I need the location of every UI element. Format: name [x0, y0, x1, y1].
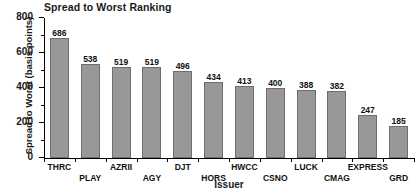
- y-axis-minor-tick: [41, 35, 44, 36]
- bar-value-label: 185: [391, 116, 405, 126]
- bar: 388: [297, 90, 316, 158]
- y-axis-minor-tick: [41, 105, 44, 106]
- x-axis-category-label: LUCK: [294, 162, 318, 172]
- bar-value-label: 686: [52, 28, 66, 38]
- bar: 496: [173, 71, 192, 158]
- chart-title: Spread to Worst Ranking: [44, 1, 172, 13]
- y-axis-tick-label: 0: [27, 151, 33, 163]
- y-axis-tick: 600: [39, 52, 44, 53]
- x-axis-tick: [260, 158, 261, 162]
- bar: 519: [142, 67, 161, 158]
- x-axis-category-label: HORS: [201, 173, 226, 183]
- bar-value-label: 434: [206, 72, 220, 82]
- bar-value-label: 388: [299, 80, 313, 90]
- bar: 686: [50, 38, 69, 158]
- x-axis-category-label: HWCC: [231, 162, 257, 172]
- x-axis-tick: [106, 158, 107, 162]
- bar: 519: [112, 67, 131, 158]
- bar-value-label: 538: [83, 54, 97, 64]
- y-axis-minor-tick: [41, 140, 44, 141]
- x-axis-category-label: EXPRESS: [348, 162, 388, 172]
- y-axis-tick: 200: [39, 122, 44, 123]
- x-axis-tick: [137, 158, 138, 162]
- x-axis-tick: [414, 158, 415, 162]
- y-axis-tick: 400: [39, 87, 44, 88]
- bar-value-label: 519: [145, 57, 159, 67]
- x-axis-tick: [291, 158, 292, 162]
- y-axis-tick-label: 800: [16, 11, 33, 23]
- y-axis-tick: 800: [39, 17, 44, 18]
- x-axis-category-label: CMAG: [324, 173, 350, 183]
- y-axis-tick-label: 400: [16, 81, 33, 93]
- x-axis-category-label: CSNO: [263, 173, 288, 183]
- y-axis-tick-label: 600: [16, 46, 33, 58]
- bar: 538: [81, 64, 100, 158]
- x-axis-tick: [167, 158, 168, 162]
- bar-value-label: 400: [268, 78, 282, 88]
- x-axis-tick: [198, 158, 199, 162]
- bar: 247: [358, 115, 377, 158]
- x-axis-category-label: AGY: [143, 173, 161, 183]
- bar-value-label: 382: [330, 81, 344, 91]
- x-axis-tick: [44, 158, 45, 162]
- x-axis-tick: [322, 158, 323, 162]
- plot-area: 0200400600800686538519519496434413400388…: [44, 18, 414, 158]
- bar: 413: [235, 86, 254, 158]
- x-axis-tick: [229, 158, 230, 162]
- x-axis-tick: [75, 158, 76, 162]
- bar: 434: [204, 82, 223, 158]
- bar-chart: Spread to Worst Ranking Spread to Worst …: [0, 0, 420, 191]
- y-axis-tick-label: 200: [16, 116, 33, 128]
- bar: 185: [389, 126, 408, 158]
- bar-value-label: 519: [114, 57, 128, 67]
- bar-value-label: 496: [176, 61, 190, 71]
- bar-value-label: 413: [237, 76, 251, 86]
- y-axis-minor-tick: [41, 70, 44, 71]
- x-axis-category-label: PLAY: [79, 173, 101, 183]
- bar: 382: [327, 91, 346, 158]
- x-axis-category-label: GRD: [389, 173, 408, 183]
- bar: 400: [266, 88, 285, 158]
- x-axis-category-label: AZRII: [110, 162, 132, 172]
- bar-value-label: 247: [361, 105, 375, 115]
- x-axis-category-label: DJT: [175, 162, 191, 172]
- x-axis-category-label: THRC: [48, 162, 72, 172]
